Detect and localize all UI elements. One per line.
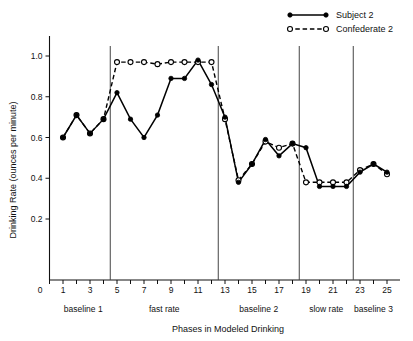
data-point-subject [317,184,321,188]
data-point-subject [142,135,146,139]
data-point-subject [344,184,348,188]
phase-label: slow rate [309,304,343,314]
data-point-subject [304,145,308,149]
x-tick-label: 21 [328,285,338,295]
y-axis-title: Drinking Rate (ounces per minute) [8,101,18,238]
phase-label: baseline 1 [64,304,103,314]
legend-marker-confederate [324,27,329,32]
data-point-confederate [209,60,214,65]
legend-marker-confederate [288,27,293,32]
y-tick-label: 0.4 [31,173,43,183]
data-point-subject [61,135,65,139]
chart-figure: Subject 2Confederate 2 0.20.40.60.81.001… [0,0,413,341]
data-point-subject [250,162,254,166]
data-point-subject [290,141,294,145]
data-point-subject [115,90,119,94]
data-point-subject [263,137,267,141]
x-tick-label: 23 [355,285,365,295]
phase-label: fast rate [149,304,180,314]
data-point-confederate [169,60,174,65]
data-point-confederate [277,145,282,150]
x-tick-label: 9 [169,285,174,295]
x-tick-label: 15 [247,285,257,295]
data-point-subject [169,76,173,80]
data-point-confederate [142,60,147,65]
data-point-subject [331,184,335,188]
x-tick-label: 1 [61,285,66,295]
phase-label: baseline 2 [239,304,278,314]
x-tick-label: 3 [88,285,93,295]
data-point-subject [236,180,240,184]
data-point-confederate [304,180,309,185]
data-point-subject [223,115,227,119]
legend-marker-subject [324,13,328,17]
data-point-subject [182,76,186,80]
data-point-subject [101,117,105,121]
phase-label: baseline 3 [354,304,393,314]
y-tick-label: 0.2 [31,214,43,224]
x-tick-label: 17 [274,285,284,295]
data-point-subject [371,162,375,166]
y-tick-label: 0.6 [31,133,43,143]
y-tick-label: 1.0 [31,51,43,61]
data-point-subject [277,154,281,158]
legend-label-confederate: Confederate 2 [336,24,393,34]
drinking-rate-line-chart: Subject 2Confederate 2 0.20.40.60.81.001… [0,0,413,341]
data-point-confederate [155,62,160,67]
data-point-subject [128,117,132,121]
data-point-subject [74,113,78,117]
x-tick-label: 25 [382,285,392,295]
data-point-subject [209,82,213,86]
data-point-confederate [128,60,133,65]
x-tick-label: 19 [301,285,311,295]
legend-marker-subject [288,13,292,17]
y-tick-label: 0.8 [31,92,43,102]
data-point-subject [196,58,200,62]
x-tick-label: 7 [142,285,147,295]
x-tick-label: 11 [194,285,203,295]
data-point-subject [155,113,159,117]
data-point-subject [88,131,92,135]
x-tick-label: 13 [220,285,230,295]
y-origin-label: 0 [38,285,43,295]
data-point-subject [358,170,362,174]
x-axis-title: Phases in Modeled Drinking [172,324,284,334]
legend-label-subject: Subject 2 [336,10,374,20]
data-point-confederate [182,60,187,65]
data-point-subject [385,170,389,174]
data-point-confederate [115,60,120,65]
x-tick-label: 5 [115,285,120,295]
